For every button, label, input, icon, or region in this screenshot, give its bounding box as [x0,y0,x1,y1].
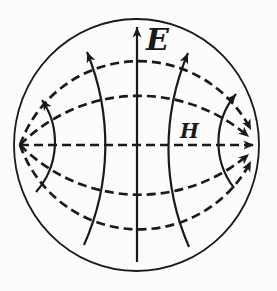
waveguide-mode-diagram: E H [0,0,277,291]
field-pattern-canvas: E H [0,0,277,291]
e-field-label: E [145,22,170,57]
h-field-label: H [179,119,200,143]
